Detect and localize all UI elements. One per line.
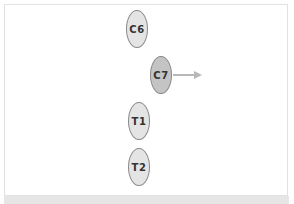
arrow-right-icon (172, 70, 204, 80)
bottom-strip (4, 196, 289, 204)
vertebra-label: C7 (153, 70, 168, 81)
vertebra-label: T1 (132, 116, 147, 127)
vertebra-t2: T2 (128, 148, 150, 186)
vertebra-label: C6 (129, 24, 144, 35)
vertebra-c7: C7 (150, 56, 172, 94)
vertebra-c6: C6 (126, 10, 148, 48)
vertebra-label: T2 (132, 162, 147, 173)
vertebra-t1: T1 (128, 102, 150, 140)
